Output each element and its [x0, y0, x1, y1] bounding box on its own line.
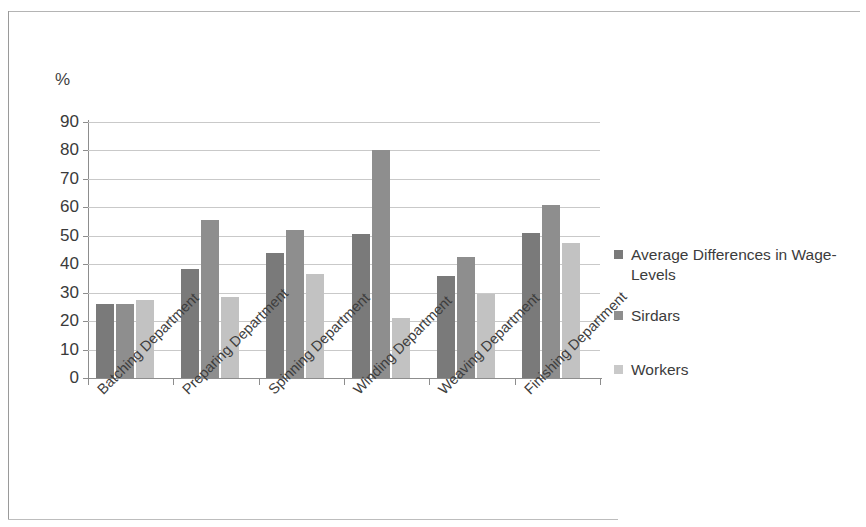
legend-swatch-icon — [614, 311, 623, 320]
y-axis-tick-label: 60 — [39, 197, 79, 217]
page-frame-bottom-border — [8, 519, 618, 520]
y-axis-tick — [83, 122, 88, 123]
gridline — [88, 122, 600, 123]
y-axis-tick — [83, 293, 88, 294]
y-axis-tick — [83, 179, 88, 180]
y-axis-tick — [83, 264, 88, 265]
x-axis-tick — [344, 378, 345, 385]
x-axis-tick — [173, 378, 174, 385]
page-frame-left-border — [8, 11, 9, 520]
y-axis-tick — [83, 321, 88, 322]
y-axis-tick-label: 20 — [39, 311, 79, 331]
y-axis-tick — [83, 150, 88, 151]
legend-swatch-icon — [614, 365, 623, 374]
legend-item-label: Average Differences in Wage-Levels — [631, 245, 846, 285]
bar — [372, 150, 390, 378]
y-axis-tick-label: 40 — [39, 254, 79, 274]
bar — [181, 269, 199, 379]
y-axis-unit-caption: % — [55, 70, 70, 90]
bar — [437, 276, 455, 378]
y-axis-tick — [83, 350, 88, 351]
y-axis-tick-label: 50 — [39, 225, 79, 245]
x-axis-tick — [515, 378, 516, 385]
legend-item-label: Sirdars — [631, 306, 680, 326]
y-axis-tick-label: 10 — [39, 339, 79, 359]
plot-area: 0102030405060708090 — [88, 122, 600, 378]
y-axis-tick-label: 80 — [39, 140, 79, 160]
legend-item[interactable]: Workers — [614, 360, 688, 380]
y-axis-tick-label: 70 — [39, 168, 79, 188]
legend-swatch-icon — [614, 250, 623, 259]
x-axis-tick — [88, 378, 89, 385]
legend-item[interactable]: Sirdars — [614, 306, 680, 326]
gridline — [88, 150, 600, 151]
bar — [96, 304, 114, 378]
page-frame-top-border — [8, 11, 860, 12]
legend-item[interactable]: Average Differences in Wage-Levels — [614, 245, 846, 285]
x-axis-tick — [600, 378, 601, 385]
gridline — [88, 179, 600, 180]
gridline — [88, 207, 600, 208]
x-axis-tick — [429, 378, 430, 385]
legend-item-label: Workers — [631, 360, 688, 380]
y-axis-tick-label: 90 — [39, 112, 79, 132]
y-axis-tick — [83, 236, 88, 237]
bar-chart-figure: % 0102030405060708090 Batching Departmen… — [0, 0, 866, 527]
y-axis-tick-label: 0 — [39, 368, 79, 388]
y-axis-tick-label: 30 — [39, 282, 79, 302]
y-axis-tick — [83, 207, 88, 208]
x-axis-tick — [259, 378, 260, 385]
